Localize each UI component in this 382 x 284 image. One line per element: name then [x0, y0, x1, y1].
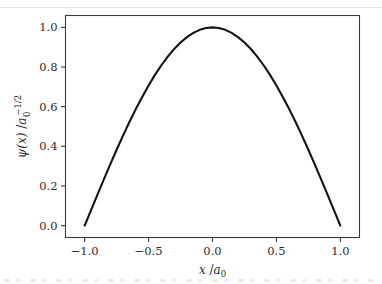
y-axis-title-unit-sup: −1/2 [13, 95, 23, 116]
x-tick-label: −1.0 [71, 244, 99, 258]
chart-plot: −1.0−0.50.00.51.00.00.20.40.60.81.0x /a0… [0, 0, 382, 284]
x-tick-label: 0.0 [203, 244, 221, 258]
y-axis-title: ψ(x) /a0−1/2 [13, 95, 32, 158]
data-curve-0 [85, 27, 341, 225]
scan-artifact-bottom-caption [4, 279, 378, 282]
y-tick-label: 0.2 [39, 179, 57, 193]
scan-artifact-top [0, 7, 382, 8]
x-tick-label: 0.5 [267, 244, 285, 258]
x-axis-title-text: x /a0 [199, 263, 226, 279]
x-axis-title: x /a0 [199, 263, 226, 279]
y-axis-title-var: ψ(x) [15, 132, 29, 158]
y-tick-label: 0.0 [39, 219, 57, 233]
x-tick-label: −0.5 [135, 244, 163, 258]
x-axis-title-unit: a [214, 263, 221, 277]
y-axis-title-unit-sub: 0 [22, 112, 32, 117]
y-axis-title-text: ψ(x) /a0−1/2 [13, 95, 32, 158]
y-axis-title-unit: a [15, 118, 29, 125]
plot-frame [66, 16, 360, 238]
x-tick-label: 1.0 [331, 244, 349, 258]
y-tick-label: 0.8 [39, 60, 57, 74]
y-tick-label: 0.6 [39, 100, 57, 114]
figure-container: −1.0−0.50.00.51.00.00.20.40.60.81.0x /a0… [0, 0, 382, 284]
y-tick-label: 0.4 [39, 139, 57, 153]
x-axis-title-unit-sub: 0 [221, 269, 226, 279]
y-tick-label: 1.0 [39, 20, 57, 34]
